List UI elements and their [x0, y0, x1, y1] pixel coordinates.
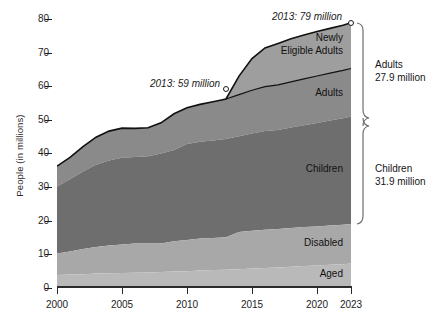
- callout-marker-59-million: [223, 86, 229, 92]
- x-tick-mark-2023: [351, 288, 352, 294]
- x-tick-mark-2010: [187, 288, 188, 294]
- callout-2013-59-million: 2013: 59 million: [150, 78, 220, 89]
- x-tick-label-2005: 2005: [102, 300, 142, 310]
- x-tick-mark-2005: [122, 288, 123, 294]
- bracket-children: [357, 118, 369, 224]
- chart-container: People (in millions) 80 70 60 50 40 30 2…: [0, 0, 434, 325]
- callout-marker-79-million: [348, 20, 354, 26]
- band-label-disabled: Disabled: [304, 237, 343, 249]
- x-tick-mark-2020: [317, 288, 318, 294]
- x-tick-label-2023: 2023: [331, 300, 371, 310]
- band-label-newly-eligible-adults-line1: Newly: [316, 32, 343, 44]
- band-label-children: Children: [306, 163, 343, 175]
- stacked-area-plot: [0, 0, 434, 325]
- band-label-newly-eligible-adults-line2: Eligible Adults: [281, 45, 343, 57]
- band-label-aged: Aged: [320, 268, 343, 280]
- x-tick-label-2015: 2015: [232, 300, 272, 310]
- x-tick-label-2010: 2010: [167, 300, 207, 310]
- bracket-label-children-line2: 31.9 million: [375, 175, 426, 188]
- x-tick-mark-2015: [252, 288, 253, 294]
- band-label-adults: Adults: [315, 87, 343, 99]
- bracket-label-adults-line2: 27.9 million: [375, 71, 426, 84]
- x-tick-label-2000: 2000: [37, 300, 77, 310]
- bracket-label-children-line1: Children: [375, 162, 412, 175]
- callout-2013-79-million: 2013: 79 million: [272, 11, 342, 22]
- x-tick-mark-2000: [57, 288, 58, 294]
- bracket-label-adults-line1: Adults: [375, 58, 403, 71]
- x-axis-line: [57, 286, 352, 288]
- bracket-adults: [357, 23, 369, 126]
